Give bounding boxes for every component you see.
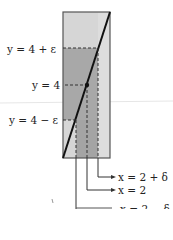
axis-tick-mark [52,199,53,203]
arrow-x-center [111,188,116,192]
label-x-center: x = 2 [118,184,146,196]
leader-x-upper [98,158,111,177]
limit-point [85,83,89,87]
label-y-lower: y = 4 − ε [9,114,58,126]
leader-x-center [87,158,111,190]
label-x-lower: x = 2 − δ [120,203,170,209]
label-y-upper: y = 4 + ε [7,43,56,55]
label-y-center: y = 4 [32,79,60,91]
epsilon-band [63,48,98,120]
arrow-x-upper [111,175,116,179]
label-x-upper: x = 2 + δ [118,171,168,183]
